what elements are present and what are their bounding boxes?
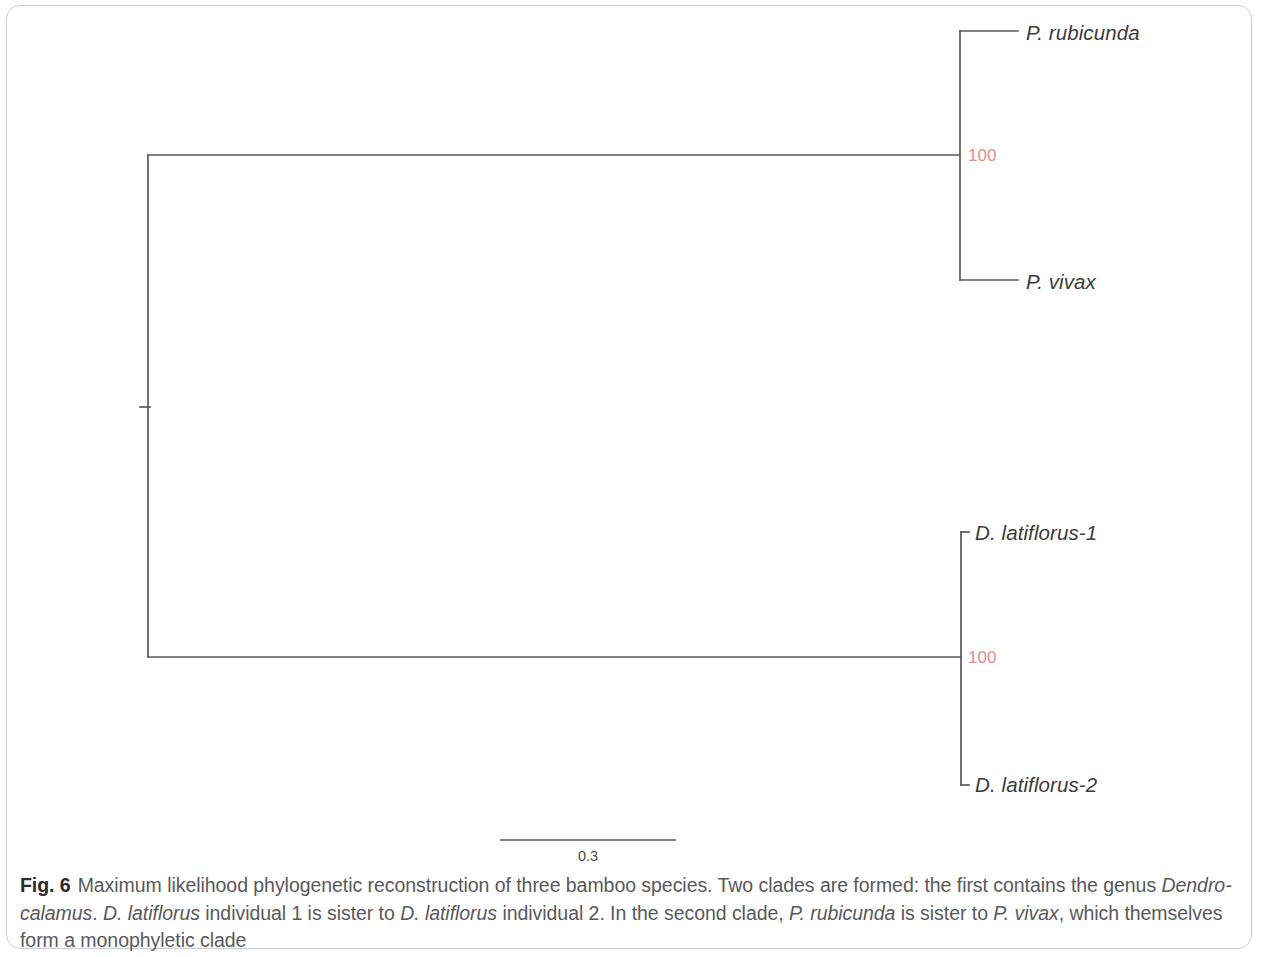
caption-run: individual 1 is sister to: [200, 902, 400, 924]
caption-italic-run: P. rubicunda: [789, 902, 895, 924]
caption-italic-run: D. latiflorus: [103, 902, 200, 924]
tip-label-d-latiflorus-1: D. latiflorus-1: [975, 521, 1097, 545]
caption-run: Maximum likelihood phylogenetic reconstr…: [78, 874, 1162, 896]
caption-italic-run: Dendro-: [1161, 874, 1231, 896]
scale-bar-label: 0.3: [500, 848, 676, 864]
figure-number: Fig. 6: [20, 874, 71, 896]
caption-run: is sister to: [895, 902, 993, 924]
caption-italic-run: D. latiflorus: [400, 902, 497, 924]
caption-italic-run: calamus: [20, 902, 92, 924]
tree-svg: [0, 0, 1261, 870]
phylogenetic-tree: P. rubicunda P. vivax D. latiflorus-1 D.…: [0, 0, 1261, 870]
caption-run: monophyletic clade: [80, 929, 246, 951]
tree-branch-group: [140, 31, 1018, 785]
caption-italic-run: P. vivax: [993, 902, 1058, 924]
support-value-dendrocalamus: 100: [968, 648, 996, 668]
support-value-phyllostachys: 100: [968, 146, 996, 166]
figure-caption: Fig. 6Maximum likelihood phylogenetic re…: [20, 872, 1235, 955]
tip-label-p-rubicunda: P. rubicunda: [1026, 21, 1140, 45]
caption-text: Maximum likelihood phylogenetic reconstr…: [20, 874, 1232, 951]
figure-page: P. rubicunda P. vivax D. latiflorus-1 D.…: [0, 0, 1261, 957]
caption-run: .: [92, 902, 103, 924]
tip-label-d-latiflorus-2: D. latiflorus-2: [975, 773, 1097, 797]
caption-run: individual 2. In the second clade,: [497, 902, 789, 924]
tip-label-p-vivax: P. vivax: [1026, 270, 1096, 294]
